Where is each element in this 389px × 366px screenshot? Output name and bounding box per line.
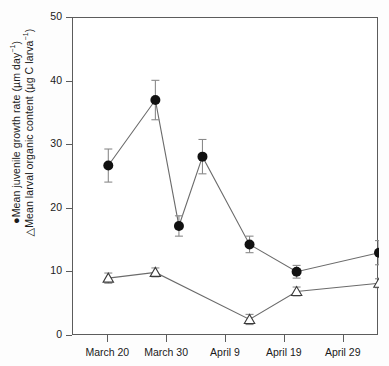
data-point-circle — [174, 221, 184, 231]
data-point-circle — [150, 95, 160, 105]
data-point-circle — [292, 267, 302, 277]
x-axis-tick — [343, 335, 344, 342]
y-axis-label-sup-2: −1 — [22, 32, 29, 40]
data-point-circle — [374, 248, 379, 258]
series-line — [108, 272, 379, 319]
y-axis-tick — [66, 335, 72, 336]
x-axis-tick-label: April 29 — [308, 346, 378, 358]
plot-area — [72, 17, 378, 335]
y-axis-tick — [66, 17, 72, 18]
y-axis-tick — [66, 144, 72, 145]
data-canvas — [73, 18, 379, 336]
filled-circle-icon: ● — [10, 217, 22, 224]
series-open-triangle — [103, 267, 379, 324]
y-axis-label-line-1-text: Mean juvenile growth rate (µm day — [10, 53, 22, 218]
y-axis-tick-label: 50 — [32, 10, 62, 22]
y-axis-label-line-2-text: Mean larval organic content (µg C larva — [22, 40, 34, 227]
x-axis-tick — [107, 335, 108, 342]
series-filled-circle — [103, 80, 379, 278]
data-point-triangle — [244, 314, 254, 323]
y-axis-label-line-1: ●Mean juvenile growth rate (µm day−1) — [10, 0, 23, 283]
series-line — [108, 100, 379, 272]
data-point-circle — [103, 161, 113, 171]
y-axis-tick-label: 0 — [32, 328, 62, 340]
y-axis-label-sup-1: −1 — [9, 45, 16, 53]
data-point-triangle — [150, 267, 160, 276]
y-axis-tick-label: 40 — [32, 74, 62, 86]
y-axis-tick — [66, 81, 72, 82]
y-axis-tick — [66, 208, 72, 209]
data-point-circle — [197, 152, 207, 162]
open-triangle-icon: △ — [22, 228, 34, 237]
y-axis-tick — [66, 271, 72, 272]
y-axis-tick-label: 30 — [32, 137, 62, 149]
x-axis-tick — [225, 335, 226, 342]
x-axis-tick — [284, 335, 285, 342]
data-point-circle — [245, 239, 255, 249]
y-axis-label: ●Mean juvenile growth rate (µm day−1) △M… — [10, 0, 35, 283]
data-point-triangle — [374, 278, 379, 287]
y-axis-tick-label: 10 — [32, 264, 62, 276]
figure-container: ●Mean juvenile growth rate (µm day−1) △M… — [0, 0, 389, 366]
y-axis-tick-label: 20 — [32, 201, 62, 213]
x-axis-tick — [166, 335, 167, 342]
